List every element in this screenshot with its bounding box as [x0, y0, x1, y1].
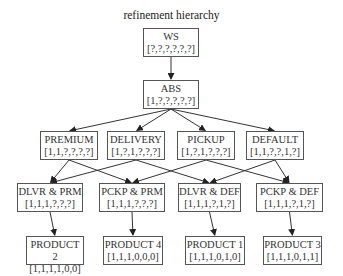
node-vector: [1,1,1,1,0,0]: [27, 263, 83, 275]
edge-arrow: [133, 160, 206, 183]
node-vector: [1,1,1,0,0,0]: [104, 251, 162, 263]
node-product4: PRODUCT 4 [1,1,1,0,0,0]: [103, 236, 163, 265]
edge-arrow: [206, 160, 289, 183]
node-vector: [1,?,?,?,?,?]: [144, 95, 198, 107]
node-vector: [1,1,1,0,1,0]: [186, 251, 244, 263]
node-vector: [1,1,1,?,1,?]: [257, 198, 322, 210]
node-dlvr-def: DLVR & DEF [1,1,1,?,1,?]: [178, 183, 241, 212]
node-abs: ABS [1,?,?,?,?,?]: [143, 80, 199, 109]
edge-arrow: [136, 160, 209, 183]
node-vector: [1,1,?,?,?,?]: [41, 146, 97, 158]
node-vector: [?,?,?,?,?,?]: [144, 43, 198, 55]
edge-arrow: [290, 212, 293, 235]
node-label: PRODUCT 4: [104, 239, 162, 251]
node-vector: [1,1,1,?,1,?]: [179, 198, 240, 210]
edge-arrow: [275, 160, 289, 182]
edge-arrow: [132, 212, 133, 235]
node-label: PCKP & DEF: [257, 186, 322, 198]
node-premium: PREMIUM [1,1,?,?,?,?]: [40, 131, 98, 160]
node-pickup: PICKUP [1,?,1,?,?,?]: [177, 131, 235, 160]
node-vector: [1,?,1,?,?,?]: [178, 146, 234, 158]
node-label: WS: [144, 31, 198, 43]
node-dlvr-prm: DLVR & PRM [1,1,1,?,?,?]: [17, 183, 83, 212]
node-vector: [1,?,1,?,?,?]: [108, 146, 164, 158]
node-vector: [1,1,1,0,1,1]: [264, 251, 321, 263]
node-product1: PRODUCT 1 [1,1,1,0,1,0]: [185, 236, 245, 265]
node-label: ABS: [144, 83, 198, 95]
node-label: DLVR & PRM: [18, 186, 82, 198]
node-delivery: DELIVERY [1,?,1,?,?,?]: [107, 131, 165, 160]
node-label: PRODUCT 1: [186, 239, 244, 251]
node-ws: WS [?,?,?,?,?,?]: [143, 28, 199, 57]
node-product3: PRODUCT 3 [1,1,1,0,1,1]: [263, 236, 322, 265]
node-label: DLVR & DEF: [179, 186, 240, 198]
node-label: DELIVERY: [108, 134, 164, 146]
node-default: DEFAULT [1,1,?,?,1,?]: [246, 131, 304, 160]
edge-arrow: [50, 212, 55, 235]
node-vector: [1,1,1,?,?,?]: [100, 198, 164, 210]
node-vector: [1,1,1,?,?,?]: [18, 198, 82, 210]
edge-arrow: [210, 212, 215, 235]
node-label: PCKP & PRM: [100, 186, 164, 198]
node-pckp-def: PCKP & DEF [1,1,1,?,1,?]: [256, 183, 323, 212]
node-pckp-prm: PCKP & PRM [1,1,1,?,?,?]: [99, 183, 165, 212]
node-label: PREMIUM: [41, 134, 97, 146]
edge-arrow: [70, 109, 171, 131]
node-vector: [1,1,?,?,1,?]: [247, 146, 303, 158]
edge-arrow: [171, 109, 274, 131]
node-label: PRODUCT 2: [27, 239, 83, 263]
node-label: DEFAULT: [247, 134, 303, 146]
node-label: PRODUCT 3: [264, 239, 321, 251]
node-label: PICKUP: [178, 134, 234, 146]
node-product2: PRODUCT 2 [1,1,1,1,0,0]: [26, 236, 84, 265]
